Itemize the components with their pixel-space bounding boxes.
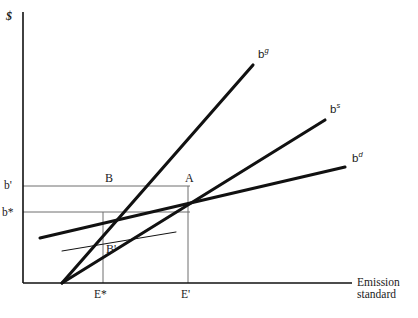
point-label-b: B xyxy=(105,172,113,185)
point-label-b-prime: B' xyxy=(106,243,116,256)
point-label-a: A xyxy=(185,172,194,185)
x-tick-label-1: E' xyxy=(181,288,190,300)
curve-label-superscript-bs: s xyxy=(336,101,340,110)
x-axis-label: Emission standard xyxy=(357,276,400,300)
curve-label-superscript-bd: d xyxy=(358,150,362,159)
y-tick-label-0: b' xyxy=(4,179,12,191)
curve-line-bg xyxy=(62,65,253,283)
curve-label-bg: bg xyxy=(258,48,269,60)
x-tick-label-0: E* xyxy=(94,288,107,300)
curve-label-bs: bs xyxy=(330,103,340,115)
y-axis-label: $ xyxy=(6,10,12,23)
emission-standard-diagram: $ Emission standard bgbsbd b'b*E*E' BAB' xyxy=(0,0,418,318)
curve-label-superscript-bg: g xyxy=(264,46,268,55)
y-tick-label-1: b* xyxy=(2,206,14,218)
x-axis-label-line2: standard xyxy=(357,288,400,300)
curve-label-bd: bd xyxy=(352,152,363,164)
x-axis-label-line1: Emission xyxy=(357,276,400,288)
